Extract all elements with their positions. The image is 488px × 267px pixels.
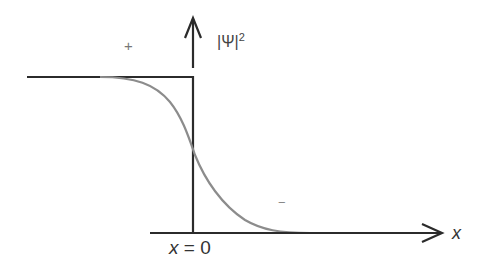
psi-exponent: 2 bbox=[239, 31, 245, 43]
x-axis-label: x bbox=[452, 224, 461, 242]
minus-region-label: − bbox=[278, 196, 286, 209]
origin-variable: x bbox=[169, 237, 179, 258]
y-axis-label: |Ψ|2 bbox=[217, 32, 245, 50]
origin-label: x = 0 bbox=[169, 238, 211, 257]
origin-equals-zero: = 0 bbox=[179, 237, 211, 258]
plus-region-label: + bbox=[124, 38, 133, 53]
psi-symbol: |Ψ| bbox=[217, 33, 239, 50]
